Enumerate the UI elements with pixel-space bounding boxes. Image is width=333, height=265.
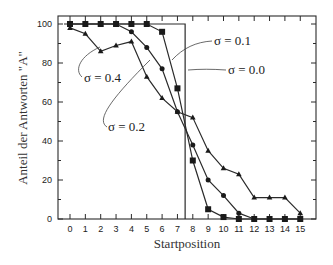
y-tick-label: 20 <box>42 175 52 185</box>
square-marker <box>174 85 180 91</box>
triangle-marker <box>205 148 211 153</box>
square-marker <box>144 21 150 27</box>
x-axis-title: Startposition <box>154 236 221 251</box>
circle-marker <box>83 22 88 27</box>
series-label: σ = 0.1 <box>214 33 251 48</box>
circle-marker <box>236 211 241 216</box>
x-tick-label: 8 <box>190 224 195 234</box>
leader-line <box>172 41 212 60</box>
circle-marker <box>252 217 257 222</box>
circle-marker <box>190 142 195 147</box>
x-tick-label: 4 <box>129 224 134 234</box>
circle-marker <box>129 29 134 34</box>
y-axis-title: Anteil der Antworten "A" <box>15 51 30 185</box>
circle-marker <box>221 193 226 198</box>
triangle-marker <box>144 74 150 79</box>
y-tick-label: 0 <box>47 214 52 224</box>
series-label: σ = 0.4 <box>84 70 122 85</box>
square-marker <box>221 214 227 220</box>
x-tick-label: 7 <box>175 224 180 234</box>
x-tick-label: 0 <box>67 224 72 234</box>
series-label: σ = 0.0 <box>228 62 265 77</box>
x-tick-label: 3 <box>114 224 119 234</box>
circle-marker <box>298 217 303 222</box>
triangle-marker <box>129 39 135 44</box>
x-tick-label: 9 <box>206 224 211 234</box>
annotations: σ = 0.1σ = 0.0σ = 0.4σ = 0.2 <box>84 33 265 134</box>
series-group <box>64 21 303 222</box>
x-tick-label: 2 <box>98 224 103 234</box>
x-tick-label: 12 <box>249 224 259 234</box>
x-tick-label: 10 <box>218 224 228 234</box>
x-tick-label: 6 <box>160 224 165 234</box>
circle-marker <box>144 45 149 50</box>
circle-marker <box>98 22 103 27</box>
x-tick-label: 13 <box>265 224 275 234</box>
leader-line <box>188 69 226 70</box>
square-marker <box>159 29 165 35</box>
square-marker <box>236 216 242 222</box>
y-tick-label: 40 <box>42 136 52 146</box>
x-tick-label: 15 <box>295 224 305 234</box>
circle-marker <box>160 66 165 71</box>
x-tick-label: 1 <box>83 224 88 234</box>
line-chart: 020406080100 0123456789101112131415 σ = … <box>0 0 333 265</box>
y-tick-label: 100 <box>37 19 52 29</box>
circle-marker <box>114 22 119 27</box>
circle-marker <box>267 217 272 222</box>
y-axis: 020406080100 <box>37 19 316 224</box>
square-marker <box>190 158 196 164</box>
x-tick-label: 11 <box>234 224 243 234</box>
square-marker <box>128 21 134 27</box>
circle-marker <box>282 217 287 222</box>
y-tick-label: 60 <box>42 97 52 107</box>
square-marker <box>205 206 211 212</box>
y-tick-label: 80 <box>42 58 52 68</box>
x-tick-label: 14 <box>280 224 290 234</box>
series-label: σ = 0.2 <box>108 119 145 134</box>
circle-marker <box>206 178 211 183</box>
x-tick-label: 5 <box>144 224 149 234</box>
